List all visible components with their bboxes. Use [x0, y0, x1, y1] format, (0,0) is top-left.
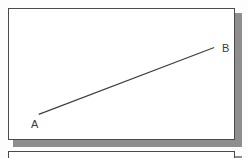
- segment-ab-line: [39, 47, 214, 114]
- point-label-b: B: [222, 43, 230, 54]
- diagram-panel: A B: [8, 8, 235, 140]
- figure-root: A B: [0, 0, 248, 158]
- point-label-a: A: [31, 119, 39, 130]
- line-segment-canvas: [9, 9, 234, 139]
- panel-below: [8, 151, 235, 158]
